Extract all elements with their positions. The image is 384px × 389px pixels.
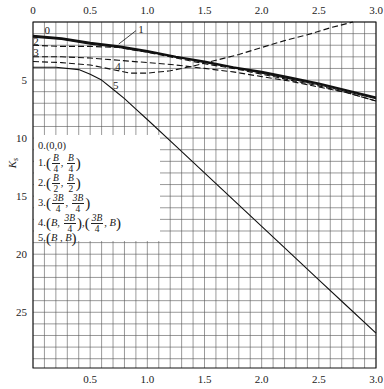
numerator: 3B xyxy=(52,193,65,204)
legend-item-5: 5.(B , B) xyxy=(38,231,77,246)
legend-item-3: 3.( 3B4, 3B4) xyxy=(38,193,90,214)
fraction: B4 xyxy=(67,153,75,174)
fraction: B2 xyxy=(67,173,75,194)
x-axis-bottom-ticks: 0.51.01.52.02.53.0 xyxy=(83,373,383,385)
x-tick-label-top: 1.5 xyxy=(198,4,212,16)
numerator: 3B xyxy=(91,213,104,224)
curve-label-1: 1 xyxy=(138,23,144,35)
y-tick-label: 25 xyxy=(16,306,28,318)
x-axis-top-ticks: 00.51.01.52.02.53.0 xyxy=(30,4,383,16)
legend-index: 5. xyxy=(38,233,46,244)
fraction: B4 xyxy=(52,153,60,174)
numerator: B xyxy=(67,173,75,184)
y-axis-label: Ks xyxy=(6,158,20,169)
numerator: B xyxy=(52,153,60,164)
fraction: 3B4 xyxy=(52,193,65,214)
x-tick-label-top: 2.0 xyxy=(255,4,269,16)
x-tick-label-top: 0.5 xyxy=(83,4,97,16)
curve-label-3: 3 xyxy=(33,46,39,58)
legend-term: B xyxy=(51,218,57,229)
legend-item-0-label: 0.(0,0) xyxy=(38,141,66,152)
numerator: B xyxy=(52,173,60,184)
legend-index: 1. xyxy=(38,158,46,169)
x-tick-label-bottom: 3.0 xyxy=(369,373,383,385)
numerator: B xyxy=(67,153,75,164)
denominator: 4 xyxy=(95,224,100,234)
fraction: 3B4 xyxy=(72,193,85,214)
fraction: 3B4 xyxy=(91,213,104,234)
curve-label-2: 2 xyxy=(33,35,39,47)
y-tick-label: 5 xyxy=(22,74,28,86)
curve-1-leader xyxy=(119,31,136,44)
legend-index: 4. xyxy=(38,218,46,229)
x-tick-label-bottom: 2.0 xyxy=(255,373,269,385)
x-tick-label-bottom: 1.0 xyxy=(140,373,154,385)
x-tick-label-bottom: 0.5 xyxy=(83,373,97,385)
curve-label-4: 4 xyxy=(115,60,121,72)
x-tick-label-bottom: 2.5 xyxy=(312,373,326,385)
curve-label-0: 0 xyxy=(44,24,50,36)
legend: 0.(0,0) 1.( B4, B4) 2.( B2, B2) 3.( 3B4,… xyxy=(34,135,160,241)
x-tick-label-top: 1.0 xyxy=(140,4,154,16)
legend-index: 2. xyxy=(38,178,46,189)
legend-item-1: 1.( B4, B4) xyxy=(38,153,81,174)
y-tick-label: 10 xyxy=(16,132,28,144)
y-tick-label: 20 xyxy=(16,248,28,260)
x-tick-label-top: 2.5 xyxy=(312,4,326,16)
numerator: 3B xyxy=(72,193,85,204)
legend-term: B , B xyxy=(51,233,72,244)
numerator: 3B xyxy=(64,213,77,224)
x-tick-label-top: 0 xyxy=(30,4,36,16)
legend-item-0: 0.(0,0) xyxy=(38,141,66,152)
curve-label-5: 5 xyxy=(113,79,119,91)
fraction: B2 xyxy=(52,173,60,194)
x-tick-label-bottom: 1.5 xyxy=(198,373,212,385)
x-tick-label-top: 3.0 xyxy=(369,4,383,16)
legend-item-2: 2.( B2, B2) xyxy=(38,173,81,194)
legend-index: 3. xyxy=(38,198,46,209)
y-tick-label: 15 xyxy=(16,190,28,202)
y-axis-ticks: 510152025 xyxy=(16,74,28,318)
